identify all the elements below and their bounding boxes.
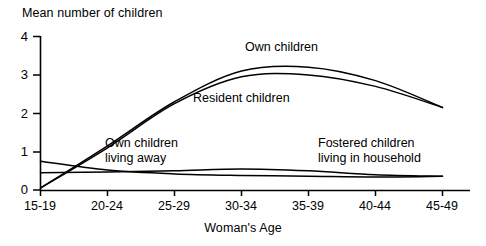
x-tick-label-40-44: 40-44 <box>342 199 408 213</box>
y-axis-ticks <box>33 37 41 191</box>
y-tick-label-2: 2 <box>12 106 28 121</box>
annotation-line-2: living away <box>105 151 178 166</box>
x-tick-label-35-39: 35-39 <box>275 199 341 213</box>
x-tick-label-45-49: 45-49 <box>409 199 475 213</box>
x-axis-ticks <box>41 191 443 197</box>
series-layer <box>41 66 443 188</box>
x-tick-label-25-29: 25-29 <box>141 199 207 213</box>
series-annotation-own-children-living-away: Own children living away <box>105 136 178 165</box>
chart-figure: Mean number of children <box>0 0 486 246</box>
x-tick-label-30-34: 30-34 <box>208 199 274 213</box>
annotation-line-1: Fostered children <box>318 136 421 151</box>
series-annotation-own-children: Own children <box>245 40 318 55</box>
y-tick-label-0: 0 <box>12 182 28 197</box>
y-tick-label-4: 4 <box>12 29 28 44</box>
x-tick-label-15-19: 15-19 <box>7 199 73 213</box>
series-annotation-fostered-children: Fostered children living in household <box>318 136 421 165</box>
series-annotation-resident-children: Resident children <box>193 91 290 106</box>
x-tick-label-20-24: 20-24 <box>74 199 140 213</box>
y-tick-label-1: 1 <box>12 144 28 159</box>
x-axis-title: Woman's Age <box>0 221 486 235</box>
y-tick-label-3: 3 <box>12 67 28 82</box>
annotation-line-2: living in household <box>318 151 421 166</box>
annotation-line-1: Own children <box>105 136 178 151</box>
